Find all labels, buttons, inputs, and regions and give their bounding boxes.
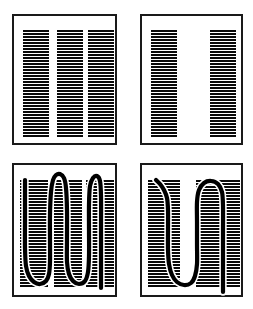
figure-canvas bbox=[0, 0, 253, 309]
four-panel-hatch-figure bbox=[0, 0, 253, 309]
three-band-hatch-panel bbox=[13, 15, 116, 144]
